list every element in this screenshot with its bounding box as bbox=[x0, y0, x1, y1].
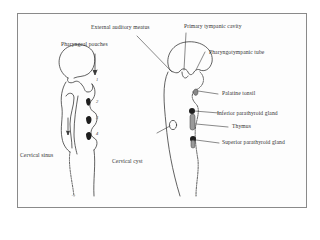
label-external-auditory-meatus: External auditory meatus bbox=[91, 25, 150, 31]
label-superior-parathyroid-gland: Superior parathyroid gland bbox=[222, 140, 285, 146]
right-embryo-outline bbox=[164, 42, 212, 196]
left-arrow-marker: →← bbox=[69, 193, 78, 198]
label-pharyngotympanic-tube: Pharyngotympanic tube bbox=[209, 50, 264, 56]
left-pouch-fills bbox=[86, 98, 91, 140]
pouch-number-4: 4 bbox=[96, 132, 98, 137]
label-pharyngeal-pouches: Pharyngeal pouches bbox=[61, 42, 108, 48]
label-palatine-tonsil: Palatine tonsil bbox=[222, 91, 255, 97]
pouch-number-2: 2 bbox=[96, 100, 98, 105]
right-gland-fills bbox=[189, 89, 198, 148]
label-thymus: Thymus bbox=[232, 124, 251, 130]
pouch-number-3: 3 bbox=[96, 116, 98, 121]
label-primary-tympanic-cavity: Primary tympanic cavity bbox=[184, 24, 242, 30]
label-cervical-cyst: Cervical cyst bbox=[112, 159, 143, 165]
label-cervical-sinus: Cervical sinus bbox=[20, 153, 53, 159]
pouch-number-1: 1 bbox=[96, 78, 98, 83]
right-arrow-marker: → bbox=[193, 193, 198, 198]
label-inferior-parathyroid-gland: Inferior parathyroid gland bbox=[217, 111, 278, 117]
